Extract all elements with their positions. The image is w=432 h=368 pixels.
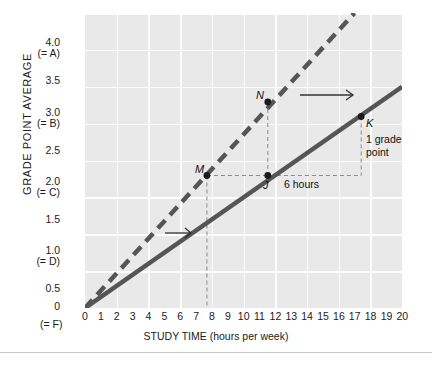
- x-tick-10: 10: [236, 310, 252, 322]
- rise-annotation-line2: point: [366, 146, 389, 158]
- upper-arrow-icon: [300, 90, 353, 100]
- y-tick-value: 2.5: [45, 144, 60, 156]
- point-label-n: N: [256, 89, 264, 101]
- y-tick-grade: (= D): [0, 256, 60, 267]
- data-lines: [85, 13, 402, 308]
- x-tick-1: 1: [93, 310, 109, 322]
- x-tick-8: 8: [204, 310, 220, 322]
- x-tick-16: 16: [331, 310, 347, 322]
- x-tick-12: 12: [267, 310, 283, 322]
- x-tick-14: 14: [299, 310, 315, 322]
- x-tick-2: 2: [109, 310, 125, 322]
- y-tick-1-0: 1.0 (= D): [0, 245, 60, 267]
- chart-figure: GRADE POINT AVERAGE 4.0 (= A) 3.5 3.0 (=…: [0, 0, 432, 368]
- y-tick-4-0: 4.0 (= A): [0, 37, 60, 59]
- x-tick-5: 5: [156, 310, 172, 322]
- run-annotation: 6 hours: [284, 178, 319, 190]
- y-tick-value: 3.5: [45, 74, 60, 86]
- x-tick-4: 4: [141, 310, 157, 322]
- y-tick-2-5: 2.5: [0, 145, 60, 156]
- y-tick-value: 0.5: [45, 282, 60, 294]
- x-tick-0: 0: [77, 310, 93, 322]
- x-tick-9: 9: [220, 310, 236, 322]
- series-dashed-line: [85, 13, 355, 308]
- x-tick-18: 18: [363, 310, 379, 322]
- point-label-m: M: [195, 163, 204, 175]
- x-tick-3: 3: [125, 310, 141, 322]
- y-tick-value: 1.5: [45, 213, 60, 225]
- x-tick-17: 17: [347, 310, 363, 322]
- y-tick-grade: (= A): [0, 48, 60, 59]
- y-tick-0-5: 0.5: [0, 283, 60, 294]
- x-tick-7: 7: [188, 310, 204, 322]
- marker-k: [358, 113, 365, 120]
- y-tick-grade: (= C): [0, 187, 60, 198]
- plot-area: M N J K 6 hours 1 grade point: [85, 13, 402, 308]
- marker-j: [264, 172, 271, 179]
- lower-arrow-icon: [165, 228, 191, 238]
- point-label-j: J: [263, 179, 269, 191]
- rise-annotation-line1: 1 grade: [366, 133, 402, 145]
- x-tick-11: 11: [252, 310, 268, 322]
- y-tick-1-5: 1.5: [0, 214, 60, 225]
- y-tick-0: 0: [0, 301, 60, 312]
- marker-n: [264, 99, 271, 106]
- x-tick-19: 19: [379, 310, 395, 322]
- y-tick-grade-f: (= F): [40, 318, 62, 330]
- y-tick-value: 0: [54, 300, 60, 312]
- footer-divider: [0, 352, 432, 353]
- point-label-k: K: [366, 117, 373, 129]
- marker-m: [204, 172, 211, 179]
- y-tick-2-0: 2.0 (= C): [0, 176, 60, 198]
- y-tick-3-0: 3.0 (= B): [0, 107, 60, 129]
- x-tick-13: 13: [283, 310, 299, 322]
- x-tick-6: 6: [172, 310, 188, 322]
- y-tick-grade: (= B): [0, 118, 60, 129]
- y-tick-3-5: 3.5: [0, 75, 60, 86]
- x-tick-20: 20: [394, 310, 410, 322]
- series-solid-line: [85, 87, 402, 308]
- x-axis-title: STUDY TIME (hours per week): [0, 330, 432, 342]
- x-tick-15: 15: [315, 310, 331, 322]
